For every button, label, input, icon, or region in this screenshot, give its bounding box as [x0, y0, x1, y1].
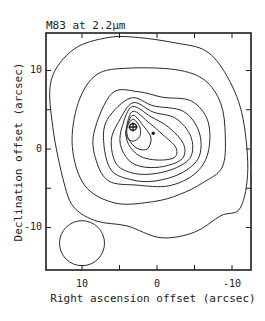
x-tick-label-10: 10 — [76, 278, 88, 289]
contour-lines — [50, 36, 248, 238]
secondary-peak-dot-icon — [152, 132, 155, 135]
y-tick-label-10: 10 — [30, 64, 42, 75]
contour-line — [103, 98, 201, 182]
x-axis-label: Right ascension offset (arcsec) — [50, 292, 255, 305]
beam-circle — [60, 221, 105, 266]
contour-line — [50, 36, 248, 238]
x-tick-label-0: 0 — [154, 278, 160, 289]
y-tick-label-0: 0 — [36, 143, 42, 154]
nucleus-cross-icon — [129, 123, 138, 132]
y-tick-label-minus10: -10 — [24, 221, 42, 232]
contour-figure: M83 at 2.2µm 10 0 -10 10 0 -10 Right asc… — [0, 0, 265, 321]
contour-line — [72, 68, 225, 204]
x-tick-label-minus10: -10 — [223, 278, 241, 289]
chart-title: M83 at 2.2µm — [46, 19, 126, 32]
contour-line — [126, 111, 177, 160]
y-axis-label: Declination offset (arcsec) — [12, 63, 25, 242]
